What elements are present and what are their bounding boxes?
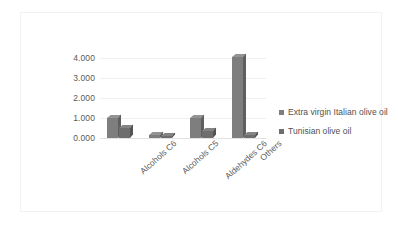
category-axis-labels: Alcohols C6Alcohols C5Aldehydes C6Others [100, 139, 280, 194]
bar-front-face [161, 136, 172, 138]
bar-group [225, 58, 267, 138]
bar [149, 135, 160, 138]
bar [202, 131, 213, 138]
bar-front-face [119, 128, 130, 138]
bar [161, 136, 172, 138]
bar-front-face [232, 57, 243, 138]
chart-legend: Extra virgin Italian olive oilTunisian o… [279, 108, 398, 146]
bar-side-face [213, 127, 216, 138]
category-label: Alcohols C5 [180, 139, 219, 176]
legend-swatch-icon [279, 110, 284, 115]
legend-label: Tunisian olive oil [288, 127, 351, 137]
bar [107, 118, 118, 138]
bar-front-face [190, 118, 201, 138]
y-axis-tick-label: 2.000 [73, 94, 95, 103]
bar-group [183, 58, 225, 138]
bar-side-face [243, 53, 246, 138]
bar-front-face [107, 118, 118, 138]
y-axis-tick-label: 3.000 [73, 74, 95, 83]
legend-item[interactable]: Tunisian olive oil [279, 127, 398, 137]
plot-area: 0.0001.0002.0003.0004.000 [100, 58, 266, 138]
bar-side-face [130, 124, 133, 138]
bar [244, 135, 255, 138]
legend-swatch-icon [279, 129, 284, 134]
legend-item[interactable]: Extra virgin Italian olive oil [279, 108, 398, 118]
bar-group [142, 58, 184, 138]
y-axis-tick-label: 4.000 [73, 54, 95, 63]
y-axis-tick-label: 1.000 [73, 114, 95, 123]
bar-front-face [149, 135, 160, 138]
bar [119, 128, 130, 138]
bar [190, 118, 201, 138]
category-label: Alcohols C6 [139, 139, 178, 176]
bar [232, 57, 243, 138]
y-axis-tick-label: 0.000 [73, 134, 95, 143]
legend-label: Extra virgin Italian olive oil [288, 108, 388, 118]
bar-group [100, 58, 142, 138]
bar-front-face [202, 131, 213, 138]
bar-front-face [244, 135, 255, 138]
chart-frame: 0.0001.0002.0003.0004.000 Alcohols C6Alc… [20, 12, 382, 212]
